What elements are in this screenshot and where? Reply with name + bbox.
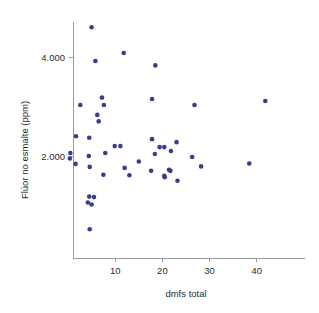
data-point (102, 103, 107, 108)
data-point (162, 175, 167, 180)
data-point (86, 154, 91, 159)
data-point (247, 161, 252, 166)
data-point (162, 145, 167, 150)
x-axis-tick-label: 20 (157, 265, 168, 276)
data-point (122, 166, 127, 171)
axes-group (73, 22, 305, 258)
x-axis-tick-label: 40 (252, 265, 263, 276)
data-point (100, 95, 105, 100)
data-point (199, 164, 204, 169)
data-point (175, 178, 180, 183)
y-axis-title: Flúor no esmalte (ppm) (19, 101, 30, 199)
data-point (169, 149, 174, 154)
ticks-group (69, 57, 257, 262)
data-point (87, 227, 92, 232)
data-point (68, 151, 73, 156)
data-point (89, 25, 94, 30)
data-point (112, 144, 117, 149)
data-point (174, 140, 179, 145)
data-point (150, 137, 155, 142)
data-point (153, 152, 158, 157)
data-point (190, 155, 195, 160)
data-point (192, 103, 197, 108)
data-point (149, 169, 154, 174)
x-axis-tick-label: 30 (204, 265, 215, 276)
data-point (157, 145, 162, 150)
data-point (168, 169, 173, 174)
data-point (101, 173, 106, 178)
data-point (263, 99, 268, 104)
data-point (153, 63, 158, 68)
x-axis-tick-label: 10 (110, 265, 121, 276)
data-point (127, 173, 132, 178)
data-point (89, 202, 94, 207)
data-point (87, 135, 92, 140)
x-axis-title: dmfs total (165, 288, 206, 299)
data-point (96, 119, 101, 124)
data-point (74, 134, 79, 139)
data-point (73, 162, 78, 167)
data-point (87, 194, 92, 199)
data-point (118, 144, 123, 149)
data-point (78, 103, 83, 108)
data-point (92, 195, 97, 200)
scatter-plot-figure: 102030402.0004.000 dmfs total Flúor no e… (0, 0, 319, 313)
data-point (150, 97, 155, 102)
data-point (137, 159, 142, 164)
data-point (103, 151, 108, 156)
y-axis-tick-label: 4.000 (41, 52, 65, 63)
y-axis-tick-label: 2.000 (41, 151, 65, 162)
data-point (121, 51, 126, 56)
data-point (87, 165, 92, 170)
plot-canvas: 102030402.0004.000 dmfs total Flúor no e… (0, 0, 319, 313)
data-point (68, 156, 73, 161)
data-point (93, 59, 98, 64)
data-points-group (68, 25, 268, 232)
data-point (95, 113, 100, 118)
